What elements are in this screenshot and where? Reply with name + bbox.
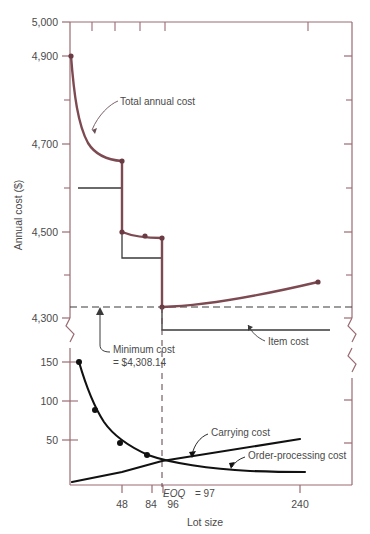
xlabel-96: 96 [167,498,179,510]
eoq-label-italic: EOQ [163,488,185,499]
data-point-marker [76,359,82,365]
eoq-cost-chart: Total annual cost Item cost Minimum cost… [0,0,370,534]
ylabel-5000: 5,000 [32,16,58,28]
data-point-marker [159,235,164,240]
label-minimum-cost-line2: = $4,308.14 [113,357,167,368]
lower-panel-frame [62,348,352,493]
ylabel-4900: 4,900 [32,50,58,62]
left-axis-break-icon [66,318,74,342]
ylabel-100: 100 [40,395,58,407]
xlabel-240: 240 [291,498,309,510]
data-point-marker [119,158,124,163]
data-point-marker [119,229,124,234]
minimum-cost-callout-elbow [100,345,110,352]
xlabel-48: 48 [116,498,128,510]
y-axis-title: Annual cost ($) [12,180,24,251]
ylabel-150: 150 [40,356,58,368]
item-cost-step-line [78,188,330,330]
order-processing-cost-leader [232,457,245,467]
total-annual-cost-curve [71,56,318,307]
order-processing-markers [76,359,150,458]
eoq-label-value: = 97 [195,488,215,499]
minimum-cost-callout-arrow [96,307,104,315]
data-point-marker [92,407,98,413]
data-point-marker [117,440,123,446]
ylabel-4300: 4,300 [32,312,58,324]
right-axis-break-icon-lower [348,348,356,372]
upper-panel-frame [62,22,352,318]
total-annual-cost-leader [92,101,118,130]
right-axis-break-icon [348,318,356,342]
data-point-marker [315,279,320,284]
chart-svg: Total annual cost Item cost Minimum cost… [0,0,370,534]
total-annual-cost-markers [68,53,320,309]
data-point-marker [68,53,73,58]
label-carrying-cost: Carrying cost [211,427,270,438]
label-minimum-cost-line1: Minimum cost [113,344,175,355]
data-point-marker [144,452,150,458]
x-axis-title: Lot size [187,516,223,528]
order-processing-cost-leader-arrow [229,462,235,469]
ylabel-4500: 4,500 [32,226,58,238]
label-item-cost: Item cost [268,336,309,347]
ylabel-50: 50 [46,434,58,446]
label-order-processing-cost: Order-processing cost [248,450,347,461]
ylabel-4700: 4,700 [32,138,58,150]
axis-break-glyphs [66,318,356,372]
data-point-marker [142,233,147,238]
label-total-annual-cost: Total annual cost [120,96,195,107]
xlabel-84: 84 [145,498,157,510]
